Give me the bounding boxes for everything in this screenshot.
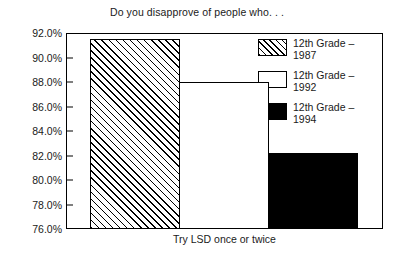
y-axis-tick-label: 90.0% xyxy=(0,52,62,64)
y-axis-tick-label: 78.0% xyxy=(0,199,62,211)
bar-1987 xyxy=(90,39,180,229)
legend-swatch-hatched xyxy=(258,39,287,56)
legend-item-1992: 12th Grade –1992 xyxy=(258,70,386,93)
bar-chart: Do you disapprove of people who. . . 92.… xyxy=(0,0,394,259)
legend: 12th Grade –198712th Grade –199212th Gra… xyxy=(258,38,386,134)
y-axis-tick-mark xyxy=(66,131,73,132)
y-axis-tick-label: 86.0% xyxy=(0,101,62,113)
y-axis-tick-label: 82.0% xyxy=(0,150,62,162)
y-axis-tick-label: 84.0% xyxy=(0,125,62,137)
y-axis-tick-mark xyxy=(66,180,73,181)
chart-title: Do you disapprove of people who. . . xyxy=(0,6,394,18)
y-axis-tick-mark xyxy=(66,155,73,156)
bar-1994 xyxy=(268,153,358,229)
legend-item-1994: 12th Grade –1994 xyxy=(258,102,386,125)
legend-item-1987: 12th Grade –1987 xyxy=(258,38,386,61)
x-axis-label: Try LSD once or twice xyxy=(66,233,383,245)
legend-label: 12th Grade –1987 xyxy=(293,38,354,61)
legend-label: 12th Grade –1992 xyxy=(293,70,354,93)
y-axis-tick-mark xyxy=(66,204,73,205)
y-axis-tick-label: 76.0% xyxy=(0,223,62,235)
y-axis-tick-mark xyxy=(66,106,73,107)
y-axis-tick-label: 80.0% xyxy=(0,174,62,186)
legend-label: 12th Grade –1994 xyxy=(293,102,354,125)
bar-1992 xyxy=(179,82,269,229)
y-axis-tick-label: 88.0% xyxy=(0,76,62,88)
y-axis-tick-mark xyxy=(66,57,73,58)
y-axis-tick-label: 92.0% xyxy=(0,27,62,39)
y-axis: 92.0%90.0%88.0%86.0%84.0%82.0%80.0%78.0%… xyxy=(0,33,62,229)
y-axis-tick-mark xyxy=(66,82,73,83)
